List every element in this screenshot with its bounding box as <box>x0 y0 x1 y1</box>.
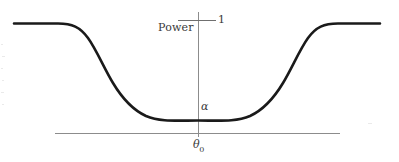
x-tick-label-theta-zero: θ0 <box>193 139 205 153</box>
theta-subscript: 0 <box>199 145 204 154</box>
y-tick-label-one: 1 <box>218 14 225 25</box>
y-axis-label: Power <box>158 22 194 33</box>
power-curve-path <box>14 24 380 121</box>
power-curve-figure: Power 1 α θ0 <box>0 0 399 162</box>
alpha-level-label: α <box>201 101 208 112</box>
